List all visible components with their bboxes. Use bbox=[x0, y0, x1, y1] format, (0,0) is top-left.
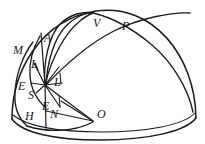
point-label-A: A bbox=[44, 32, 51, 44]
vertical-chord-through-center bbox=[41, 33, 46, 128]
point-label-M: M bbox=[13, 44, 23, 56]
ray-center-to-S bbox=[36, 85, 45, 93]
point-label-L-upper: L bbox=[31, 58, 38, 70]
point-label-P: P bbox=[122, 20, 129, 32]
point-label-H: H bbox=[25, 110, 34, 122]
point-label-O: O bbox=[97, 108, 106, 120]
point-label-N: N bbox=[50, 108, 58, 120]
ray-center-to-E1 bbox=[31, 83, 45, 85]
meridian-arc-through-P bbox=[45, 13, 190, 86]
point-label-E-upper: E bbox=[18, 80, 25, 92]
dome-outline-curve bbox=[12, 10, 196, 119]
point-label-S: S bbox=[28, 89, 34, 101]
point-label-E-lower: E bbox=[42, 100, 49, 112]
point-label-V: V bbox=[93, 17, 100, 29]
arc-center-to-O bbox=[27, 122, 93, 130]
diagram-canvas: M A V P L L E S E H N O bbox=[0, 0, 205, 144]
arc-zenith-to-right-limb bbox=[93, 13, 193, 112]
point-label-L-lower: L bbox=[54, 76, 61, 88]
